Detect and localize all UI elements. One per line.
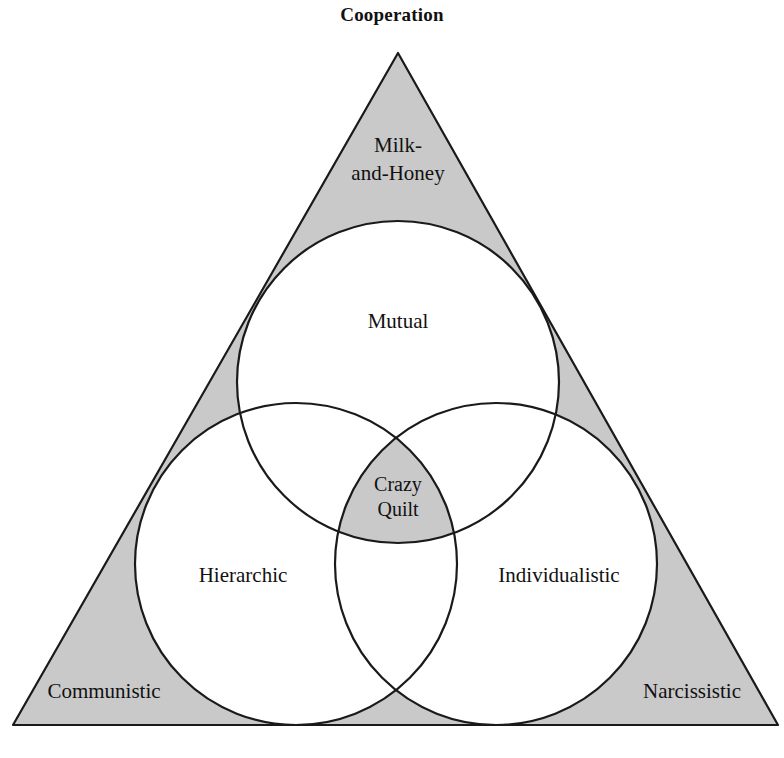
label-narcissistic: Narcissistic (643, 679, 741, 703)
cooperation-venn-figure: Cooperation (0, 0, 784, 758)
label-mutual: Mutual (368, 309, 429, 333)
label-communistic: Communistic (47, 679, 160, 703)
label-crazy-quilt-line1: Crazy (374, 473, 422, 496)
label-hierarchic: Hierarchic (199, 563, 288, 587)
venn-diagram-svg: Milk- and-Honey Communistic Narcissistic… (0, 0, 784, 758)
label-milk-and-honey-line1: Milk- (374, 133, 422, 157)
label-crazy-quilt-line2: Quilt (377, 498, 419, 520)
label-individualistic: Individualistic (498, 563, 619, 587)
label-milk-and-honey-line2: and-Honey (351, 161, 445, 185)
page-title: Cooperation (0, 4, 784, 26)
